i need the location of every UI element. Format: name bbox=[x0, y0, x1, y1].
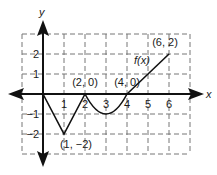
x-tick-label: 5 bbox=[145, 98, 151, 110]
x-tick-label: 6 bbox=[166, 98, 172, 110]
axes: x y bbox=[8, 6, 212, 167]
y-axis-label: y bbox=[38, 6, 46, 18]
y-tick-label: 2 bbox=[33, 48, 39, 60]
point-label: (1, −2) bbox=[60, 138, 92, 150]
x-tick-label: 3 bbox=[103, 98, 109, 110]
point-label: (6, 2) bbox=[152, 36, 178, 48]
y-tick-label: 1 bbox=[33, 68, 39, 80]
x-tick-label: 1 bbox=[61, 98, 67, 110]
point-label: (4, 0) bbox=[114, 76, 140, 88]
y-tick-label: −1 bbox=[26, 108, 39, 120]
point-label: (2, 0) bbox=[72, 76, 98, 88]
function-label: f(x) bbox=[134, 54, 150, 66]
x-axis-label: x bbox=[205, 88, 212, 100]
x-tick-label: 4 bbox=[124, 98, 130, 110]
function-graph: x y 12345621−1−2 (2, 0)(4, 0)(1, −2)(6, … bbox=[0, 0, 217, 175]
y-tick-label: −2 bbox=[26, 128, 39, 140]
